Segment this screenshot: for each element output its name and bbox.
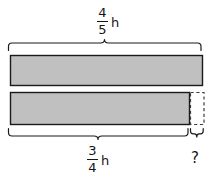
- top-measure-numerator: 4: [97, 6, 107, 20]
- top-brace: [9, 40, 202, 51]
- bottom-measure-denominator: 4: [87, 161, 97, 175]
- unknown-measure-label: ?: [184, 146, 206, 170]
- bottom-measure-fraction: 3 4: [87, 144, 98, 175]
- bottom-measure-label: 3 4 h: [66, 144, 130, 175]
- bottom-measure-numerator: 3: [87, 144, 97, 158]
- bar-model-diagram: 4 5 h 3 4 h ?: [0, 0, 216, 182]
- top-measure-unit: h: [111, 16, 119, 29]
- top-measure-fraction: 4 5: [97, 6, 108, 37]
- bottom-bar-remainder-dashed: [191, 93, 205, 125]
- top-bar: [11, 56, 203, 86]
- top-measure-denominator: 5: [97, 23, 107, 37]
- top-measure-label: 4 5 h: [76, 6, 140, 36]
- bottom-brace-unknown: [191, 129, 204, 138]
- bottom-bar-filled: [11, 93, 190, 125]
- bottom-brace-main: [9, 129, 189, 140]
- bottom-measure-unit: h: [101, 154, 109, 167]
